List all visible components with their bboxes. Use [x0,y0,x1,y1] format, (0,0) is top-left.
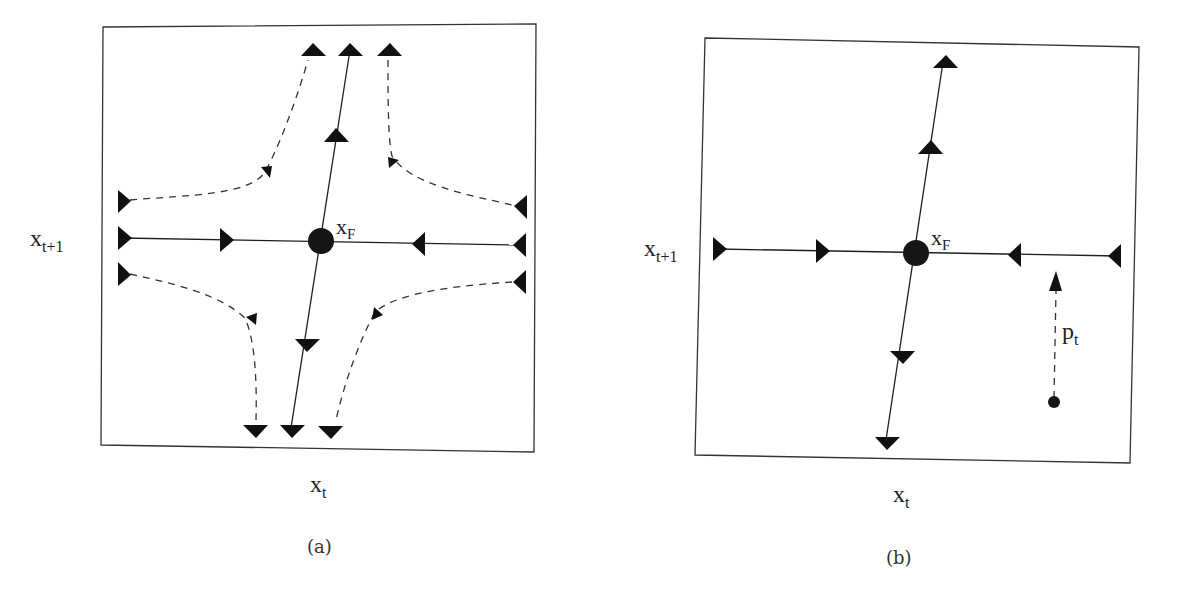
arrow-right-icon [220,228,234,252]
fixed-point-label: xF [336,214,355,242]
arrow-right-icon [816,239,830,263]
perturbation-path [1054,290,1056,398]
arrow-icon [372,307,383,320]
fixed-point [308,228,334,254]
panel-a: xF xt+1 xt (a) [30,24,536,557]
arrow-down-icon [318,426,343,439]
panel-caption: (a) [307,536,332,557]
arrow-up-icon [301,43,326,56]
arrow-left-icon [1008,243,1021,267]
arrow-left-icon [412,232,425,256]
arrow-up-icon [918,140,943,154]
arrow-right-icon [713,237,727,261]
panel-caption: (b) [886,547,912,568]
arrow-left-icon [514,195,527,219]
x-axis-label: xt [310,471,327,501]
arrow-left-icon [513,270,526,294]
arrow-down-icon [280,425,305,438]
arrow-left-icon [513,233,526,257]
y-axis-label: xt+1 [30,225,63,255]
trajectory-lower-left [130,274,256,420]
fixed-point-label: xF [931,225,950,253]
trajectory-upper-right [388,60,512,205]
arrow-up-icon [324,128,349,142]
arrow-down-icon [295,339,320,352]
y-axis-label: xt+1 [644,235,677,265]
arrow-right-icon [118,262,131,286]
fixed-point [903,240,929,266]
arrow-right-icon [118,226,132,250]
x-axis-label: xt [893,481,910,511]
arrow-up-icon [933,55,958,68]
arrow-down-icon [890,351,915,364]
arrow-up-icon [338,43,363,56]
trajectory-lower-right [336,282,512,420]
arrow-icon [261,166,272,178]
panel-b: xF pt xt+1 xt (b) [644,38,1139,568]
arrow-up-icon [377,43,402,56]
perturbation-label: pt [1062,318,1079,348]
arrow-down-icon [875,437,900,450]
perturbed-point [1048,396,1060,408]
arrow-right-icon [118,190,131,213]
arrow-left-icon [1108,244,1121,268]
arrow-down-icon [243,425,268,438]
trajectory-upper-left [130,60,308,200]
figure-canvas: .frame { fill: none; stroke: #333; strok… [0,0,1179,603]
arrow-up-icon [1049,271,1062,291]
